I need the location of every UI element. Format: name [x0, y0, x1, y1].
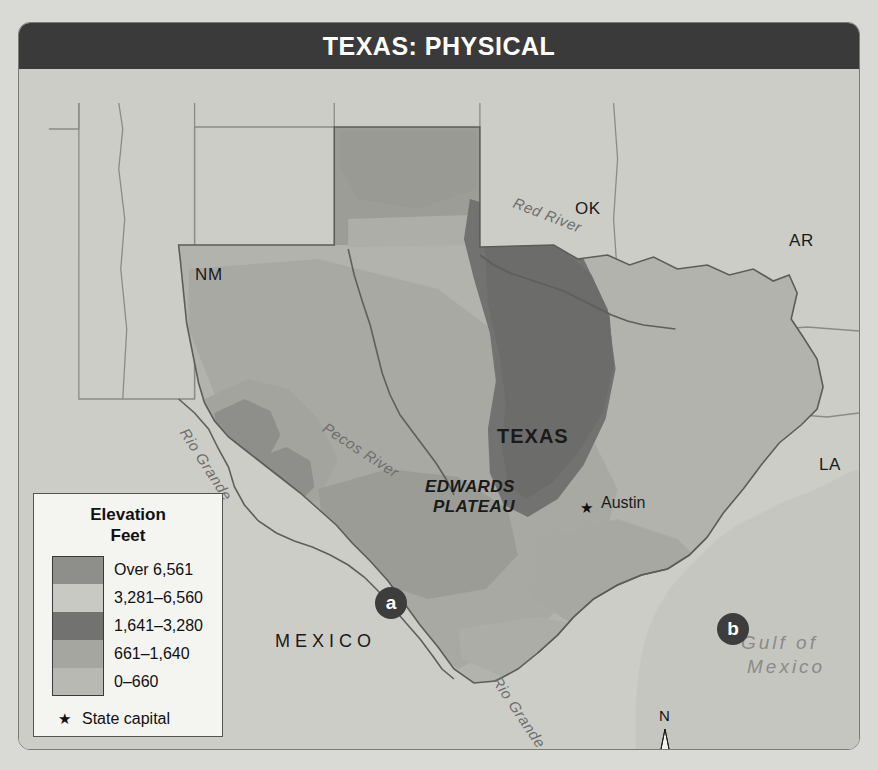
legend-capital-row: ★ State capital: [58, 710, 222, 728]
state-label-ar: AR: [789, 231, 814, 251]
gulf-line2: Mexico: [747, 655, 825, 679]
plateau-line1: EDWARDS: [425, 477, 515, 497]
legend-label: 1,641–3,280: [114, 617, 203, 635]
map-body: NM OK AR LA TEXAS EDWARDS PLATEAU MEXICO…: [19, 69, 859, 750]
legend-capital-label: State capital: [82, 710, 170, 728]
legend-title-line1: Elevation: [34, 504, 222, 525]
water-label-gulf-of-mexico: Gulf of Mexico: [741, 631, 825, 679]
page-title: TEXAS: PHYSICAL: [323, 32, 556, 61]
plateau-line2: PLATEAU: [433, 497, 515, 517]
compass-label-east: E: [697, 749, 707, 750]
legend-row: 0–660: [52, 668, 222, 696]
legend-rows: Over 6,561 3,281–6,560 1,641–3,280 661–1…: [52, 556, 222, 696]
map-title-bar: TEXAS: PHYSICAL: [19, 23, 859, 69]
compass-rose: N S E W: [617, 711, 713, 750]
map-page: TEXAS: PHYSICAL: [0, 0, 878, 770]
legend-label: 661–1,640: [114, 645, 190, 663]
legend-swatch: [52, 612, 104, 640]
state-label-ok: OK: [575, 199, 601, 219]
state-label-la: LA: [819, 455, 841, 475]
legend-row: 3,281–6,560: [52, 584, 222, 612]
legend-row: 661–1,640: [52, 640, 222, 668]
legend-label: 0–660: [114, 673, 159, 691]
legend-row: 1,641–3,280: [52, 612, 222, 640]
map-card: TEXAS: PHYSICAL: [18, 22, 860, 750]
legend-label: 3,281–6,560: [114, 589, 203, 607]
country-label-texas: TEXAS: [497, 425, 569, 448]
legend-title: Elevation Feet: [34, 504, 222, 547]
map-legend: Elevation Feet Over 6,561 3,281–6,560 1,…: [33, 493, 223, 737]
region-label-edwards-plateau: EDWARDS PLATEAU: [425, 477, 515, 516]
legend-swatch: [52, 640, 104, 668]
legend-swatch: [52, 584, 104, 612]
legend-row: Over 6,561: [52, 556, 222, 584]
map-marker-b[interactable]: b: [717, 613, 749, 645]
gulf-line1: Gulf of: [741, 631, 825, 655]
country-label-mexico: MEXICO: [275, 631, 376, 652]
legend-swatch: [52, 556, 104, 584]
legend-label: Over 6,561: [114, 561, 193, 579]
compass-label-north: N: [659, 707, 670, 724]
state-label-nm: NM: [195, 265, 223, 285]
legend-title-line2: Feet: [34, 525, 222, 546]
legend-swatch: [52, 668, 104, 696]
compass-label-west: W: [615, 749, 629, 750]
star-icon: ★: [58, 710, 71, 728]
capital-star-icon: ★: [580, 499, 593, 517]
map-marker-a[interactable]: a: [375, 587, 407, 619]
city-label-austin: Austin: [601, 494, 645, 512]
